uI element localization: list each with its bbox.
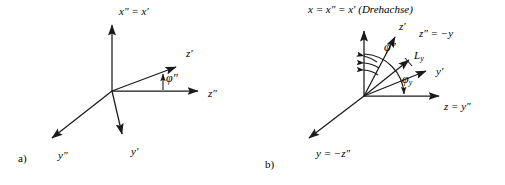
panel-a-axis-label-z-double-prime: z″ [208,88,217,99]
axis-y-prime-line [112,91,122,134]
panel-b-axis-label-z-double-prime-equals-minus-y: z″ = −y [419,28,453,39]
arc-phi-double-prime-inner [364,63,379,68]
panel-b-axis-label-z-equals-y-double-prime: z = y″ [444,101,471,112]
axis-y-prime-line [364,71,426,96]
panel-b-axis-label-y-equals-minus-z-double-prime: y = −z″ [316,148,350,159]
panel-b-angle-label-phi-double-prime: φ″ [384,41,396,53]
panel-a-axis-label-y-double-prime: y″ [58,150,67,161]
arc-phi-double-prime-outer [364,56,377,62]
panel-b-axes [309,31,439,138]
panel-b-angle-label-phi-y: φy [402,73,412,85]
panel-b-vector-label-l-y: Ly [414,50,424,61]
axis-y-double-prime-line [52,91,112,138]
panel-a-axis-label-x: x″ = x′ [119,6,149,17]
panel-a-caption: a) [18,152,27,164]
panel-b-axis-label-y-prime: y′ [436,66,443,77]
panel-a-angle-label-phi-double-prime: φ″ [166,72,178,84]
panel-b-caption: b) [265,158,274,170]
coordinate-rotation-figure: x″ = x′ z′ z″ y′ y″ φ″ a) x = x″ = x′ (D… [0,0,505,185]
panel-a-axis-label-z-prime: z′ [186,48,193,59]
axis-y-equals-minus-z-double-prime-line [309,96,364,138]
panel-b-axis-label-z-prime: z′ [399,21,406,32]
panel-b-title-rotation-axis: x = x″ = x′ (Drehachse) [308,4,413,15]
panel-a-axis-label-y-prime: y′ [131,146,138,157]
